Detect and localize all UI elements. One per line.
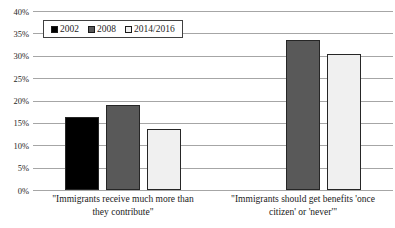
bar-slot	[245, 11, 279, 190]
legend-item: 2002	[51, 24, 79, 34]
legend-swatch-icon	[88, 26, 95, 33]
y-tick-label: 40%	[13, 8, 29, 17]
bar-group	[245, 11, 361, 190]
y-tick-label: 5%	[18, 164, 29, 173]
bar-2002-cat1	[65, 117, 99, 190]
legend: 200220082014/2016	[43, 20, 183, 38]
y-tick-label: 0%	[18, 187, 29, 196]
bar-2008-cat2	[286, 40, 320, 190]
bar-chart: 0%5%10%15%20%25%30%35%40% 200220082014/2…	[0, 0, 395, 228]
bar-2014-2016-cat1	[147, 129, 181, 190]
legend-swatch-icon	[51, 26, 58, 33]
bar-2014-2016-cat2	[327, 54, 361, 190]
gridline	[33, 190, 393, 191]
legend-item: 2008	[88, 24, 116, 34]
y-tick-label: 25%	[13, 75, 29, 84]
legend-label: 2002	[60, 24, 79, 34]
legend-swatch-icon	[125, 26, 132, 33]
x-category-label: "Immigrants receive much more than they …	[45, 193, 201, 219]
y-tick-label: 20%	[13, 97, 29, 106]
y-tick-label: 35%	[13, 30, 29, 39]
legend-label: 2014/2016	[134, 24, 175, 34]
y-tick-label: 30%	[13, 53, 29, 62]
bar-2008-cat1	[106, 105, 140, 190]
x-category-label: "Immigrants should get benefits 'once ci…	[219, 193, 387, 219]
y-tick-label: 15%	[13, 120, 29, 129]
legend-item: 2014/2016	[125, 24, 175, 34]
plot-area: 200220082014/2016	[33, 11, 393, 190]
legend-label: 2008	[97, 24, 116, 34]
y-axis: 0%5%10%15%20%25%30%35%40%	[0, 11, 29, 190]
bar-slot	[286, 11, 320, 190]
bar-slot	[327, 11, 361, 190]
x-axis-labels: "Immigrants receive much more than they …	[33, 193, 393, 226]
y-tick-label: 10%	[13, 142, 29, 151]
